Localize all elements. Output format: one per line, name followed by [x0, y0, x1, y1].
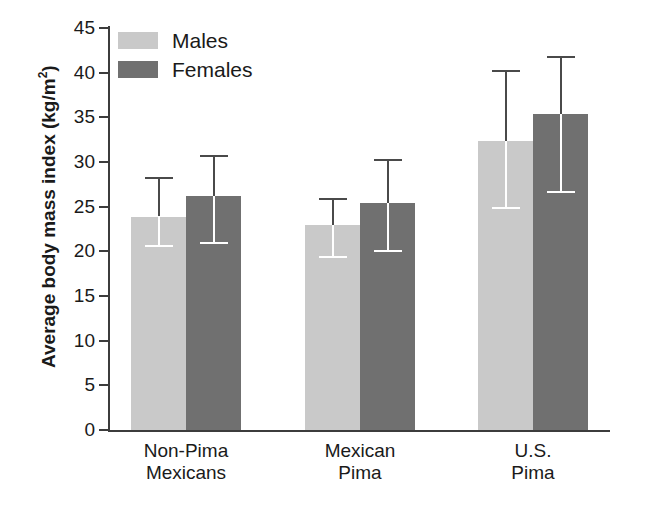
error-cap-lower	[319, 256, 347, 258]
y-tick-label-45: 45	[55, 18, 95, 37]
error-stem-lower	[158, 216, 160, 245]
bmi-bar-chart-figure: 051015202530354045 Average body mass ind…	[0, 0, 647, 511]
error-cap-lower	[374, 250, 402, 252]
y-tick-label-20: 20	[55, 241, 95, 260]
error-cap-lower	[492, 207, 520, 209]
error-cap-lower	[200, 242, 228, 244]
y-tick-40	[99, 72, 108, 74]
error-stem-upper	[505, 70, 507, 141]
error-stem-upper	[213, 155, 215, 196]
y-tick-label-35: 35	[55, 107, 95, 126]
y-tick-label-15: 15	[55, 286, 95, 305]
y-tick-30	[99, 161, 108, 163]
bar-males-non-pima-mexicans	[131, 217, 186, 431]
y-tick-label-10: 10	[55, 331, 95, 350]
y-tick-0	[99, 429, 108, 431]
x-group-label-3: U.S.Pima	[423, 440, 643, 484]
y-tick-label-30: 30	[55, 152, 95, 171]
error-stem-upper	[158, 177, 160, 216]
x-group-label-line: Pima	[423, 462, 643, 484]
legend: Males Females	[118, 30, 253, 88]
cropped-title-sliver	[150, 0, 570, 8]
error-cap-upper	[319, 198, 347, 200]
y-axis-label-superscript: 2	[36, 72, 50, 79]
error-cap-upper	[492, 70, 520, 72]
error-stem-lower	[505, 141, 507, 206]
legend-entry-females: Females	[118, 59, 253, 80]
y-axis-label-text: Average body mass index (kg/m	[38, 78, 59, 368]
legend-label-males: Males	[172, 30, 228, 51]
plot-area	[108, 28, 608, 430]
legend-swatch-females-icon	[118, 61, 158, 78]
y-tick-label-25: 25	[55, 197, 95, 216]
y-tick-5	[99, 384, 108, 386]
y-tick-label-40: 40	[55, 63, 95, 82]
y-tick-20	[99, 250, 108, 252]
error-cap-upper	[547, 56, 575, 58]
y-tick-10	[99, 340, 108, 342]
error-stem-lower	[213, 196, 215, 242]
y-tick-35	[99, 116, 108, 118]
legend-swatch-males-icon	[118, 32, 158, 49]
error-cap-upper	[200, 155, 228, 157]
y-tick-label-0: 0	[55, 420, 95, 439]
error-cap-upper	[145, 177, 173, 179]
y-tick-45	[99, 27, 108, 29]
legend-label-females: Females	[172, 59, 253, 80]
error-stem-lower	[332, 225, 334, 255]
error-stem-upper	[560, 56, 562, 114]
error-stem-lower	[560, 114, 562, 192]
error-stem-lower	[387, 203, 389, 249]
legend-entry-males: Males	[118, 30, 253, 51]
y-axis-label: Average body mass index (kg/m2)	[36, 17, 59, 417]
y-axis-label-suffix: )	[38, 65, 59, 71]
error-stem-upper	[332, 198, 334, 226]
y-tick-label-5: 5	[55, 375, 95, 394]
x-axis-line	[108, 430, 610, 432]
error-stem-upper	[387, 159, 389, 203]
error-cap-upper	[374, 159, 402, 161]
error-cap-lower	[547, 191, 575, 193]
y-tick-25	[99, 206, 108, 208]
x-group-label-line: U.S.	[423, 440, 643, 462]
error-cap-lower	[145, 245, 173, 247]
y-tick-15	[99, 295, 108, 297]
